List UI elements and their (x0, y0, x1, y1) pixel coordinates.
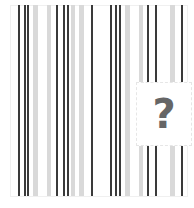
barcode-bar (79, 5, 84, 196)
barcode-bar (71, 5, 75, 196)
barcode-bar (91, 5, 93, 196)
question-mark-icon: ? (152, 94, 175, 134)
barcode-bar (125, 5, 130, 196)
barcode-bar (63, 5, 65, 196)
barcode-bar (47, 5, 51, 196)
barcode-bar (18, 5, 20, 196)
barcode-bar (24, 5, 26, 196)
barcode-bar (110, 5, 112, 196)
barcode-bar (115, 5, 117, 196)
barcode-bar (56, 5, 58, 196)
barcode-bar (67, 5, 69, 196)
barcode-bar (119, 5, 121, 196)
barcode-bar (33, 5, 38, 196)
missing-image-placeholder: ? (136, 82, 192, 146)
barcode-bar (27, 5, 29, 196)
